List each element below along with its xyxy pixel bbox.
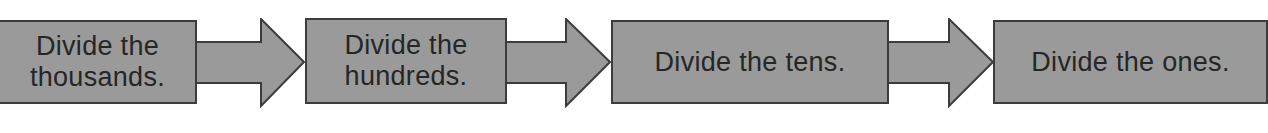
step-box-ones: Divide the ones. [993,20,1268,104]
step-label-thousands: Divide the thousands. [30,31,165,93]
arrow-right-icon [887,18,995,108]
step-label-tens: Divide the tens. [655,47,846,78]
step-label-ones: Divide the ones. [1031,47,1229,78]
step-box-hundreds: Divide the hundreds. [305,18,507,104]
step-box-tens: Divide the tens. [611,20,889,104]
step-label-hundreds: Divide the hundreds. [344,30,467,92]
step-box-thousands: Divide the thousands. [0,20,197,104]
arrow-right-icon [195,18,307,108]
arrow-right-icon [505,18,613,108]
